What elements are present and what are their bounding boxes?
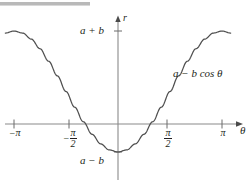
y-axis bbox=[115, 16, 120, 181]
x-axis bbox=[5, 121, 243, 127]
y-tick-label-a-plus-b: a + b bbox=[80, 25, 104, 36]
y-axis-label: r bbox=[123, 13, 127, 23]
x-tick-label-neg-pi: −π bbox=[7, 128, 23, 139]
x-tick-label-neg-half-pi: −π2 bbox=[58, 128, 82, 149]
pi-glyph: π bbox=[220, 127, 225, 138]
fraction: π2 bbox=[70, 128, 77, 149]
plot-canvas bbox=[0, 0, 251, 184]
x-tick-label-half-pi: π2 bbox=[161, 128, 175, 149]
pi-glyph: π bbox=[16, 127, 21, 138]
fraction: π2 bbox=[164, 128, 171, 149]
curve-annotation-label: a − b cos θ bbox=[173, 68, 223, 79]
x-tick-label-pi: π bbox=[217, 128, 229, 138]
fraction-denominator: 2 bbox=[70, 139, 77, 149]
y-tick-label-a-minus-b: a − b bbox=[80, 155, 104, 166]
x-axis-label: θ bbox=[240, 125, 245, 136]
figure-container: r θ a + b a − b a − b cos θ −π −π2 π2 π bbox=[0, 0, 251, 184]
fraction-denominator: 2 bbox=[164, 139, 171, 149]
